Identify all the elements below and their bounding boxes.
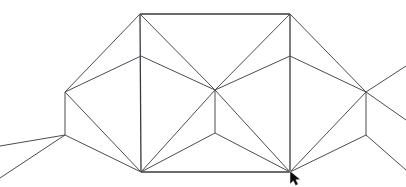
- edge-midleft-to-center: [141, 56, 215, 90]
- edge-rightpeak-to-bottomright: [290, 92, 366, 172]
- edge-midleft-to-leftpeak: [65, 56, 141, 92]
- edge-rightbranch-offscreen: [366, 135, 406, 170]
- edge-leftbranch-to-bottomleft: [65, 135, 141, 172]
- edge-topright-to-rightpeak: [290, 14, 366, 92]
- edge-rightpeak-offscreen-upper: [366, 66, 406, 92]
- edge-rightbranch-to-bottomright: [290, 135, 366, 172]
- edge-leftpeak-to-bottomleft: [65, 92, 141, 172]
- edge-centerbranch-to-bottomright: [215, 133, 290, 172]
- left-wing-edges: [0, 14, 141, 178]
- right-wing-edges: [290, 14, 406, 172]
- edge-topleft-to-center: [140, 14, 215, 90]
- edge-topright-to-center: [215, 14, 290, 90]
- edge-leftbranch-offscreen-upper: [0, 135, 65, 146]
- edge-midright-to-rightpeak: [290, 56, 366, 92]
- edge-rightpeak-offscreen-lower: [366, 92, 406, 120]
- edge-leftbranch-offscreen-lower: [0, 135, 65, 178]
- edge-topleft-to-leftpeak: [65, 14, 140, 92]
- edge-center-to-bottomleft: [141, 90, 215, 172]
- wireframe-mesh-diagram: [0, 0, 406, 187]
- edge-centerbranch-to-bottomleft: [141, 133, 215, 172]
- edge-midright-to-center: [215, 56, 290, 90]
- edge-center-to-bottomright: [215, 90, 290, 172]
- center-fan-edges: [140, 14, 290, 172]
- edge-frame-left-vertical: [140, 14, 141, 172]
- drawing-canvas[interactable]: [0, 0, 406, 187]
- mouse-pointer-icon: [290, 171, 300, 186]
